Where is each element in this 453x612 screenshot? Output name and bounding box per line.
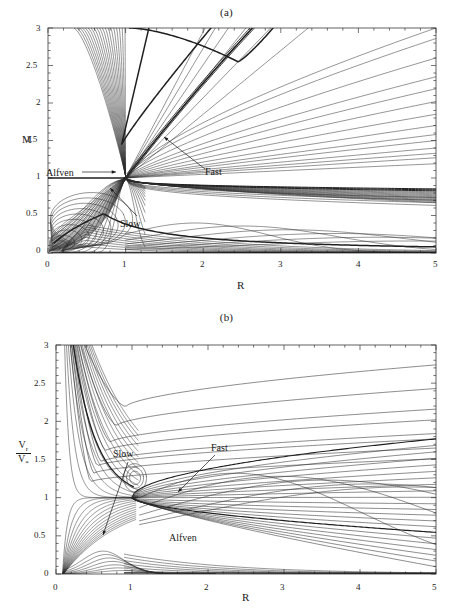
panel-a-xtick-2: 2: [200, 260, 205, 269]
panel-b-ytick-0: 0: [44, 569, 49, 578]
panel-a-ytick-0.5: 0.5: [26, 209, 37, 218]
panel-a-annotation-fast: Fast: [205, 166, 222, 177]
panel-b-annotation-slow: Slow: [113, 448, 134, 459]
panel-b-xtick-5: 5: [432, 583, 437, 592]
panel-b-xtick-0: 0: [53, 583, 58, 592]
panel-b-ytick-3: 3: [44, 341, 49, 350]
panel-a-plot: [0, 0, 453, 300]
panel-a-xtick-4: 4: [356, 260, 361, 269]
panel-b-annotation-fast: Fast: [211, 442, 228, 453]
panel-a-xtick-3: 3: [278, 260, 283, 269]
panel-b: (b) Vr V* R 3 2.5 2 1.5 1 0.5 0 0 1 2 3 …: [0, 300, 453, 612]
panel-b-ytick-2: 2: [44, 417, 49, 426]
panel-a-annotation-alfven: Alfven: [46, 167, 74, 178]
panel-b-xlabel: R: [242, 591, 249, 603]
panel-a-ytick-1.5: 1.5: [26, 135, 37, 144]
panel-b-ylabel-numerator: Vr: [16, 440, 31, 454]
panel-b-ytick-1.5: 1.5: [34, 455, 45, 464]
panel-a: (a) M R 3 2.5 2 1.5 1 0.5 0 0 1 2 3 4 5 …: [0, 0, 453, 300]
panel-b-ytick-2.5: 2.5: [34, 379, 45, 388]
panel-b-xtick-1: 1: [128, 583, 133, 592]
panel-a-xtick-5: 5: [433, 260, 438, 269]
panel-b-xtick-2: 2: [204, 583, 209, 592]
panel-b-ytick-1: 1: [44, 493, 49, 502]
panel-b-xtick-3: 3: [280, 583, 285, 592]
panel-a-ytick-3: 3: [36, 24, 41, 33]
figure-page: (a) M R 3 2.5 2 1.5 1 0.5 0 0 1 2 3 4 5 …: [0, 0, 453, 612]
panel-a-xtick-1: 1: [122, 260, 127, 269]
panel-b-plot: [0, 300, 453, 612]
panel-a-xtick-0: 0: [45, 260, 50, 269]
panel-b-ylabel-denominator: V*: [16, 454, 31, 467]
panel-a-ytick-1: 1: [36, 172, 41, 181]
panel-a-ytick-2.5: 2.5: [26, 61, 37, 70]
panel-b-ytick-0.5: 0.5: [34, 531, 45, 540]
panel-a-xlabel: R: [237, 279, 244, 291]
panel-b-xtick-4: 4: [356, 583, 361, 592]
panel-b-ylabel: Vr V*: [16, 440, 31, 468]
panel-b-annotation-alfven: Alfven: [169, 532, 197, 543]
panel-a-annotation-slow: Slow: [120, 218, 141, 229]
panel-a-ytick-2: 2: [36, 98, 41, 107]
panel-a-ytick-0: 0: [36, 246, 41, 255]
